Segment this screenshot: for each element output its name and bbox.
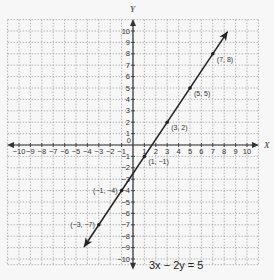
x-tick-label: −5 — [72, 147, 81, 156]
data-point — [97, 223, 101, 227]
y-tick-label: −5 — [121, 198, 130, 207]
data-point — [120, 189, 124, 193]
point-label: (3, 2) — [171, 124, 187, 132]
x-tick-label: 4 — [177, 147, 181, 156]
y-axis-arrow-down-icon — [130, 263, 136, 270]
data-point — [143, 155, 147, 159]
y-tick-label: −6 — [121, 209, 130, 218]
y-tick-label: −10 — [117, 255, 130, 264]
y-tick-label: 6 — [126, 72, 130, 81]
y-tick-label: 9 — [126, 38, 130, 47]
y-axis-label: Y — [130, 4, 136, 14]
x-tick-label: −6 — [60, 147, 69, 156]
x-tick-label: 2 — [154, 147, 158, 156]
y-tick-label: 3 — [126, 106, 130, 115]
y-tick-label: −8 — [121, 232, 130, 241]
x-tick-label: 9 — [234, 147, 238, 156]
point-label: (1, −1) — [148, 158, 168, 166]
y-tick-label: 4 — [126, 95, 130, 104]
y-tick-label: −2 — [121, 163, 130, 172]
y-tick-label: 7 — [126, 61, 130, 70]
point-label: (−3, −7) — [70, 221, 95, 229]
y-tick-label: 10 — [122, 27, 130, 36]
x-tick-label: 5 — [188, 147, 192, 156]
point-label: (5, 5) — [194, 90, 210, 98]
y-tick-label: −9 — [121, 243, 130, 252]
y-tick-label: 8 — [126, 49, 130, 58]
equation-label: 3x − 2y = 5 — [149, 259, 203, 271]
line-arrow-up-icon — [219, 32, 227, 42]
x-tick-label: 8 — [222, 147, 226, 156]
x-tick-label: 10 — [243, 147, 251, 156]
x-tick-label: −3 — [95, 147, 104, 156]
x-tick-label: 7 — [211, 147, 215, 156]
x-tick-label: −4 — [83, 147, 92, 156]
data-point — [211, 52, 215, 56]
x-tick-label: −9 — [26, 147, 35, 156]
y-tick-label: 2 — [126, 118, 130, 127]
y-tick-label: −1 — [121, 152, 130, 161]
x-tick-label: −2 — [106, 147, 115, 156]
x-tick-label: 3 — [165, 147, 169, 156]
coordinate-plane: −10−9−8−7−6−5−4−3−2−112345678910−10−9−8−… — [0, 0, 274, 280]
point-label: (7, 8) — [217, 56, 233, 64]
point-label: (−1, −4) — [93, 187, 118, 195]
x-tick-label: −8 — [38, 147, 47, 156]
line-series: (−3, −7)(−1, −4)(1, −1)(3, 2)(5, 5)(7, 8… — [70, 32, 233, 247]
x-tick-label: −10 — [13, 147, 26, 156]
origin-label: 0 — [127, 136, 131, 145]
y-axis-arrow-up-icon — [130, 19, 136, 26]
data-point — [165, 120, 169, 124]
x-axis-arrow-right-icon — [252, 142, 259, 148]
x-tick-label: 6 — [199, 147, 203, 156]
x-axis-label: X — [263, 140, 270, 150]
y-tick-label: −7 — [121, 220, 130, 229]
x-tick-label: −7 — [49, 147, 58, 156]
y-tick-label: 5 — [126, 84, 130, 93]
data-point — [188, 86, 192, 90]
line-arrow-down-icon — [84, 237, 92, 247]
